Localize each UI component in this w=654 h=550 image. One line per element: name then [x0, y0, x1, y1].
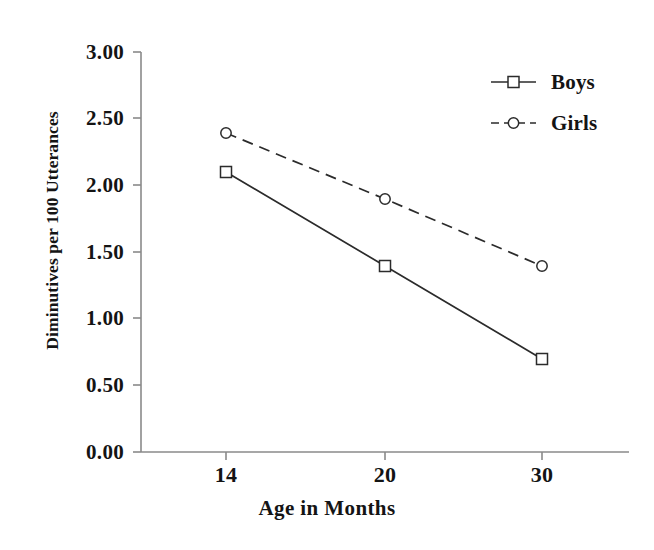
legend-boys-marker [508, 77, 519, 88]
y-tick-label-0-00: 0.00 [52, 440, 124, 465]
y-tick-label-2-50: 2.50 [52, 106, 124, 131]
y-tick-label-0-50: 0.50 [52, 373, 124, 398]
legend-item-boys-label: Boys [551, 70, 595, 95]
series-girls [221, 128, 547, 271]
x-tick-label-14: 14 [196, 462, 256, 488]
girls-point-30 [537, 261, 547, 271]
girls-point-14 [221, 128, 231, 138]
boys-point-14 [221, 167, 232, 178]
boys-point-30 [537, 354, 548, 365]
y-tick-label-1-50: 1.50 [52, 240, 124, 265]
boys-point-20 [380, 261, 391, 272]
x-axis-title: Age in Months [0, 496, 654, 521]
y-tick-label-2-00: 2.00 [52, 173, 124, 198]
y-axis-title: Diminutives per 100 Utterances [42, 66, 63, 396]
y-tick-label-1-00: 1.00 [52, 306, 124, 331]
legend-samples [491, 77, 536, 129]
chart-figure: 3.00 2.50 2.00 1.50 1.00 0.50 0.00 14 20… [0, 0, 654, 550]
y-tick-label-3-00: 3.00 [52, 40, 124, 65]
girls-point-20 [380, 194, 390, 204]
x-tick-label-30: 30 [512, 462, 572, 488]
legend-item-girls-label: Girls [551, 111, 598, 136]
x-axis-ticks [226, 452, 542, 460]
y-axis-ticks [133, 52, 141, 452]
x-tick-label-20: 20 [355, 462, 415, 488]
legend-girls-marker [508, 118, 518, 128]
